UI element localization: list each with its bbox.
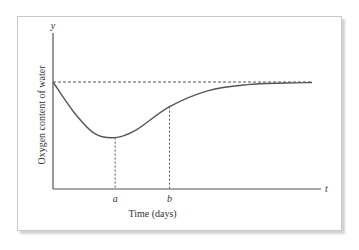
- marker-label-a: a: [113, 193, 118, 204]
- y-axis-symbol: y: [50, 20, 56, 31]
- y-axis-label: Oxygen content of water: [36, 65, 47, 165]
- x-axis-label: Time (days): [128, 208, 176, 220]
- oxygen-sag-chart: ab y t Time (days) Oxygen content of wat…: [0, 0, 359, 250]
- marker-label-b: b: [167, 193, 172, 204]
- x-axis-symbol: t: [325, 183, 328, 194]
- oxygen-curve: [53, 82, 312, 138]
